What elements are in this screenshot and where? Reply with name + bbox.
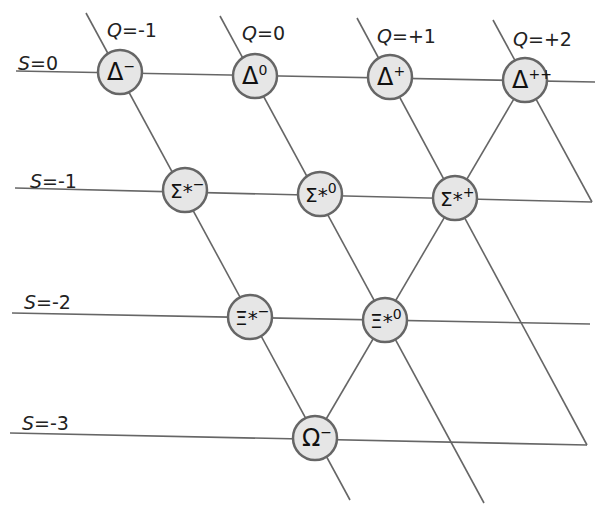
decuplet-diagram: S=0S=-1S=-2S=-3Q=-1Q=0Q=+1Q=+2 Δ−Δ0Δ+Δ++… bbox=[0, 0, 605, 515]
particle-delta-minus: Δ− bbox=[98, 50, 142, 94]
charge-label-2: Q=+1 bbox=[377, 25, 436, 47]
charge-label-3: Q=+2 bbox=[513, 28, 572, 50]
particle-sigma-star-minus: Σ*− bbox=[163, 168, 207, 212]
charge-label-1: Q=0 bbox=[242, 22, 285, 44]
strangeness-label-3: S=-3 bbox=[22, 412, 69, 434]
charge-label-0: Q=-1 bbox=[107, 19, 157, 41]
strangeness-label-2: S=-2 bbox=[24, 291, 71, 313]
particle-xi-star-zero: Ξ*0 bbox=[363, 298, 407, 342]
strangeness-label-1: S=-1 bbox=[30, 170, 77, 192]
particle-sigma-star-plus: Σ*+ bbox=[433, 176, 477, 220]
particle-sigma-star-zero: Σ*0 bbox=[298, 172, 342, 216]
particle-delta-plus: Δ+ bbox=[368, 55, 412, 99]
particle-delta-plus-plus: Δ++ bbox=[503, 58, 552, 102]
strangeness-line-2 bbox=[12, 313, 590, 324]
particle-delta-zero: Δ0 bbox=[233, 54, 277, 98]
strangeness-label-0: S=0 bbox=[18, 52, 58, 74]
particle-xi-star-minus: Ξ*− bbox=[228, 295, 272, 339]
particle-omega-minus: Ω− bbox=[293, 416, 337, 460]
